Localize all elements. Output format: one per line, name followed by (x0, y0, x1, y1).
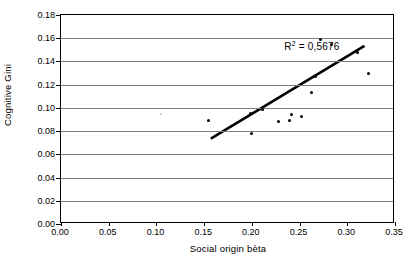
data-point (249, 112, 252, 115)
data-point (277, 120, 280, 123)
data-point (367, 72, 370, 75)
data-point (160, 113, 162, 115)
data-point (356, 51, 359, 54)
x-axis-tick-label: 0.00 (40, 228, 80, 237)
data-point (310, 91, 313, 94)
x-axis-title: Social origin bèta (0, 243, 420, 254)
x-axis-tick (252, 222, 253, 226)
x-axis-tick-label: 0.20 (231, 228, 271, 237)
x-axis-tick (395, 222, 396, 226)
x-axis-tick (109, 222, 110, 226)
r-squared-equals: = (296, 41, 308, 52)
y-axis-tick (56, 61, 61, 62)
x-axis-title-text: Social origin bèta (154, 243, 266, 254)
y-axis-tick (56, 131, 61, 132)
y-axis-tick-label: 0.16 (23, 34, 55, 43)
x-axis-tick-label: 0.10 (135, 228, 175, 237)
data-point (261, 108, 264, 111)
y-axis-tick-label: 0.08 (23, 127, 55, 136)
data-point (250, 132, 253, 135)
data-point (300, 115, 303, 118)
gridline-y (61, 38, 393, 39)
data-point (290, 113, 293, 116)
data-point (314, 75, 317, 78)
x-axis-tick-label: 0.30 (326, 228, 366, 237)
x-axis-tick-label: 0.25 (279, 228, 319, 237)
y-axis-tick-label: 0.02 (23, 197, 55, 206)
y-axis-tick-label: 0.10 (23, 104, 55, 113)
y-axis-tick (56, 85, 61, 86)
y-axis-title: Cognitive Gini (2, 64, 16, 126)
x-axis-tick-label: 0.35 (374, 228, 414, 237)
y-axis-tick (56, 178, 61, 179)
data-point (288, 119, 291, 122)
y-axis-tick-label: 0.18 (23, 11, 55, 20)
plot-area: 0.000.020.040.060.080.100.120.140.160.18 (60, 14, 394, 223)
gridline-y (61, 131, 393, 132)
x-axis-tick-label: 0.15 (183, 228, 223, 237)
gridline-y (61, 85, 393, 86)
y-axis-tick (56, 201, 61, 202)
y-axis-tick (56, 154, 61, 155)
y-axis-tick-label: 0.14 (23, 57, 55, 66)
r-squared-symbol: R (284, 41, 291, 52)
r-squared-value: 0,5676 (308, 41, 340, 52)
y-axis-tick (56, 108, 61, 109)
x-axis-tick (204, 222, 205, 226)
gridline-y (61, 201, 393, 202)
y-axis-tick-label: 0.06 (23, 150, 55, 159)
r-squared-annotation: R2 = 0,5676 (284, 42, 339, 52)
trendline-segment (211, 46, 365, 139)
gridline-y (61, 178, 393, 179)
x-axis-tick (61, 222, 62, 226)
data-point (207, 119, 210, 122)
scatter-chart-figure: Cognitive Gini 0.000.020.040.060.080.100… (0, 0, 420, 267)
x-axis-tick (347, 222, 348, 226)
x-axis-tick (300, 222, 301, 226)
y-axis-tick-label: 0.04 (23, 174, 55, 183)
x-axis-tick-label: 0.05 (88, 228, 128, 237)
gridline-y (61, 154, 393, 155)
gridline-y (61, 108, 393, 109)
trendline (61, 15, 395, 224)
y-axis-tick (56, 15, 61, 16)
x-axis-tick (156, 222, 157, 226)
y-axis-tick-label: 0.12 (23, 81, 55, 90)
gridline-y (61, 61, 393, 62)
y-axis-tick (56, 38, 61, 39)
